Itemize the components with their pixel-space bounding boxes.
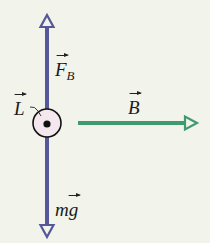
- gravity-symbol-g: g: [69, 200, 79, 219]
- length-vector-label: L: [14, 99, 25, 118]
- magnetic-force-label: FB: [55, 60, 75, 79]
- force-diagram: [0, 0, 210, 243]
- magnetic-force-arrowhead-icon: [41, 15, 54, 27]
- current-out-of-page-dot-icon: [43, 120, 50, 127]
- magnetic-field-arrowhead-icon: [185, 117, 197, 130]
- magnetic-field-symbol: B: [128, 98, 140, 117]
- gravity-arrowhead-icon: [41, 225, 54, 237]
- magnetic-force-subscript: B: [67, 68, 75, 83]
- gravity-symbol-m: m: [55, 199, 69, 220]
- magnetic-force-symbol: F: [55, 60, 67, 79]
- magnetic-field-label: B: [128, 98, 140, 117]
- length-vector-symbol: L: [14, 99, 25, 118]
- gravity-label: mg: [55, 200, 78, 219]
